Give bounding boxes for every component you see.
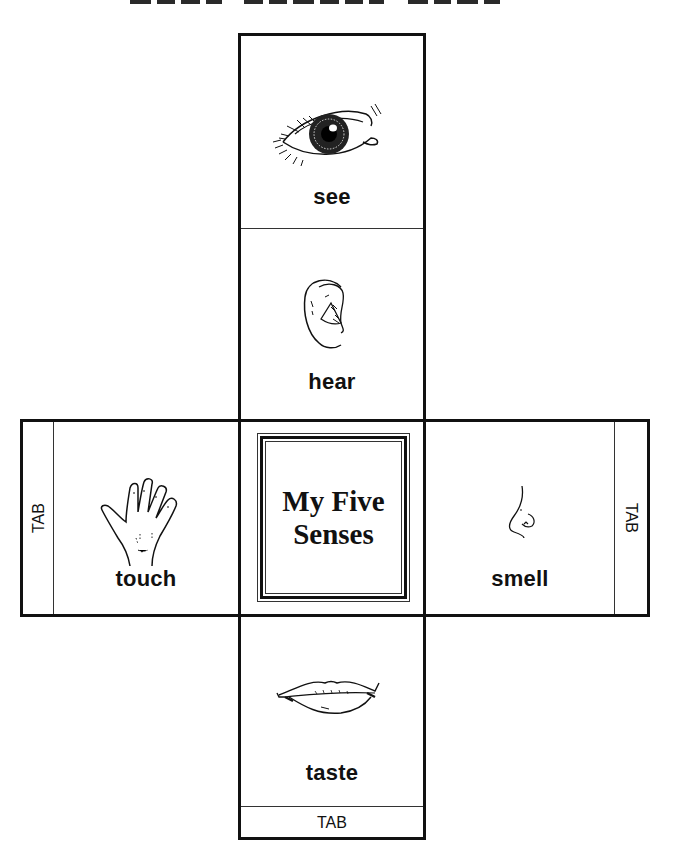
lips-icon — [275, 675, 385, 720]
tab-left: TAB — [23, 422, 54, 614]
face-label-taste: taste — [306, 760, 358, 786]
tab-right: TAB — [615, 422, 647, 614]
tab-bottom: TAB — [241, 809, 423, 837]
face-label-smell: smell — [491, 566, 548, 592]
eye-icon — [271, 98, 391, 173]
divider-touch-center — [238, 419, 241, 617]
center-title-line2: Senses — [293, 518, 374, 551]
face-smell: smell — [426, 422, 614, 614]
center-title-frame: My Five Senses — [257, 433, 410, 602]
center-title-line1: My Five — [282, 485, 384, 518]
face-taste: taste — [241, 617, 423, 806]
face-label-see: see — [313, 184, 350, 210]
tab-bottom-label: TAB — [317, 814, 347, 832]
face-hear: hear — [241, 229, 423, 419]
face-touch: touch — [54, 422, 238, 614]
face-label-hear: hear — [308, 369, 355, 395]
hand-icon — [100, 478, 190, 568]
tab-left-label: TAB — [30, 503, 48, 533]
face-label-touch: touch — [116, 566, 177, 592]
nose-icon — [504, 484, 544, 539]
divider-taste-tab — [241, 806, 423, 807]
face-see: see — [241, 36, 423, 228]
ear-icon — [299, 277, 359, 357]
page-title-clipped — [130, 0, 500, 4]
tab-right-label: TAB — [622, 503, 640, 533]
